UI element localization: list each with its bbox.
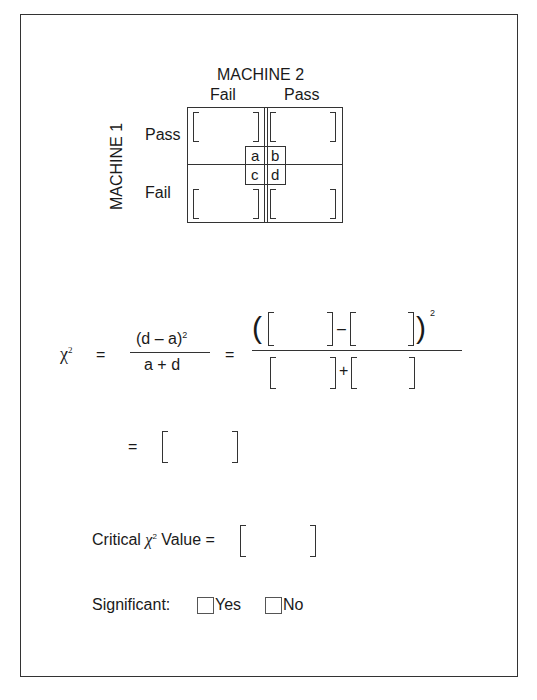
bracket-right (232, 431, 238, 463)
cell-d-input[interactable] (270, 189, 336, 219)
yes-checkbox[interactable] (197, 597, 214, 614)
plus-sign: + (339, 362, 348, 380)
bracket-right (409, 357, 415, 389)
formula-numerator: (d – a)2 (136, 330, 187, 348)
cell-b-input[interactable] (270, 112, 336, 142)
bracket-left (162, 431, 168, 463)
cell-label-d: d (271, 166, 279, 183)
bracket-left (270, 189, 276, 219)
formula-denominator: a + d (144, 356, 180, 374)
bracket-right (330, 112, 336, 142)
row-header-machine-1: MACHINE 1 (108, 123, 126, 210)
bracket-left (240, 525, 246, 557)
cell-a-input[interactable] (193, 112, 259, 142)
numerator-a-input[interactable] (350, 312, 414, 346)
cell-label-b: b (271, 147, 279, 164)
critical-value-label: Critical χ2 Value = (92, 531, 215, 549)
bracket-left (350, 312, 356, 346)
row-label-pass: Pass (145, 126, 181, 144)
chi-square-result-input[interactable] (162, 431, 238, 463)
numerator-d-input[interactable] (268, 312, 333, 346)
bracket-left (270, 357, 276, 389)
equals-sign-2: = (225, 346, 234, 364)
bracket-right (330, 357, 336, 389)
bracket-left (268, 312, 274, 346)
equals-sign-1: = (96, 346, 105, 364)
close-paren: ) (416, 306, 426, 350)
cell-label-c: c (251, 166, 259, 183)
open-paren: ( (252, 306, 262, 350)
minus-sign: – (337, 320, 346, 338)
bracket-left (351, 357, 357, 389)
bracket-right (330, 189, 336, 219)
bracket-right (327, 312, 333, 346)
denominator-d-input[interactable] (351, 357, 415, 389)
bracket-right (310, 525, 316, 557)
fraction-line-2 (252, 350, 462, 351)
cell-label-a: a (251, 147, 259, 164)
bracket-right (253, 112, 259, 142)
cell-c-input[interactable] (193, 189, 259, 219)
bracket-left (193, 112, 199, 142)
no-label: No (283, 596, 303, 614)
fraction-line-1 (130, 352, 210, 353)
square-exponent: 2 (430, 308, 435, 318)
no-checkbox[interactable] (265, 597, 282, 614)
bracket-right (253, 189, 259, 219)
yes-label: Yes (215, 596, 241, 614)
bracket-right (408, 312, 414, 346)
column-label-pass: Pass (284, 86, 320, 104)
chi-symbol: χ2 (60, 344, 73, 365)
denominator-a-input[interactable] (270, 357, 336, 389)
critical-value-input[interactable] (240, 525, 316, 557)
equals-sign-3: = (128, 438, 137, 456)
significant-label: Significant: (92, 596, 170, 614)
bracket-left (193, 189, 199, 219)
column-label-fail: Fail (210, 86, 236, 104)
bracket-left (270, 112, 276, 142)
row-label-fail: Fail (145, 184, 171, 202)
column-header-machine-2: MACHINE 2 (217, 66, 304, 84)
